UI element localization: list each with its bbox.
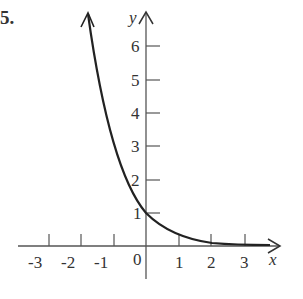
exponential-curve <box>88 14 270 245</box>
y-tick-label: 4 <box>131 105 140 122</box>
x-tick-label: -2 <box>61 254 75 271</box>
y-axis-label: y <box>129 9 137 26</box>
y-tick-label: 1 <box>133 205 142 222</box>
x-tick-label: -3 <box>28 254 42 271</box>
curve-arrow-top-icon <box>81 13 94 27</box>
y-tick-label: 2 <box>131 172 140 189</box>
y-tick-label: 5 <box>131 72 140 89</box>
x-tick-label: 3 <box>240 254 249 271</box>
origin-label: 0 <box>133 251 142 268</box>
problem-number: 5. <box>0 8 14 27</box>
chart-svg <box>0 0 303 299</box>
y-ticks <box>146 46 160 213</box>
x-axis-label: x <box>269 251 277 268</box>
y-tick-label: 3 <box>131 138 140 155</box>
x-tick-label: -1 <box>94 254 108 271</box>
x-tick-label: 2 <box>207 254 216 271</box>
x-tick-label: 1 <box>175 254 184 271</box>
y-tick-label: 6 <box>131 38 140 55</box>
